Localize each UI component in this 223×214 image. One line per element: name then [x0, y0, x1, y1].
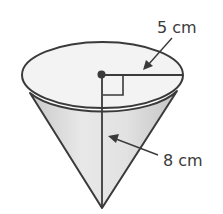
- height-label: 8 cm: [163, 151, 203, 170]
- cone-diagram: 5 cm 8 cm: [0, 0, 223, 214]
- radius-label: 5 cm: [157, 18, 197, 37]
- center-point: [98, 71, 106, 79]
